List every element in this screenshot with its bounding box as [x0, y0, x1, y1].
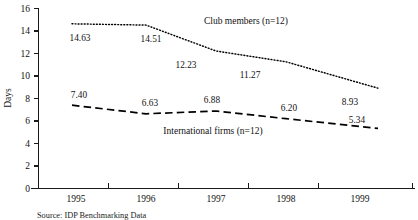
series-club-members: 14.63 14.51 12.23 11.27 8.93 Club member…: [70, 16, 378, 107]
y-tick-label-12: 12: [21, 49, 31, 59]
y-tick-label-16: 16: [21, 4, 31, 14]
y-tick-label-10: 10: [21, 71, 31, 81]
x-tick-label-1998: 1998: [277, 194, 296, 204]
y-tick-label-0: 0: [25, 184, 30, 194]
y-tick-label-2: 2: [25, 161, 30, 171]
point-label-club-1998: 11.27: [240, 70, 261, 80]
point-label-club-1995: 14.63: [70, 33, 91, 43]
x-tick-label-1996: 1996: [137, 194, 156, 204]
y-tick-label-8: 8: [25, 94, 30, 104]
y-axis-tick-labels: 16 14 12 10 8 6 4 2 0: [21, 4, 31, 194]
series-club-members-line: [72, 24, 378, 88]
x-tick-label-1999: 1999: [351, 194, 370, 204]
line-chart: 16 14 12 10 8 6 4 2 0 Days 1995 1996 199…: [0, 0, 418, 220]
point-label-intl-1996: 6.63: [142, 98, 159, 108]
y-tick-label-14: 14: [21, 26, 31, 36]
y-tick-label-4: 4: [25, 139, 30, 149]
point-label-intl-1998: 6.20: [281, 103, 298, 113]
source-note: Source: IDP Benchmarking Data: [37, 211, 146, 220]
point-label-intl-1997: 6.88: [204, 95, 221, 105]
series-label-club-members: Club members (n=12): [204, 16, 288, 27]
x-axis-ticks: [109, 183, 413, 189]
point-label-club-1997: 12.23: [176, 60, 197, 70]
point-label-club-1999: 8.93: [342, 97, 359, 107]
y-tick-label-6: 6: [25, 116, 30, 126]
point-label-club-1996: 14.51: [141, 34, 162, 44]
series-international-firms: 7.40 6.63 6.88 6.20 5.34 International f…: [71, 90, 378, 137]
y-axis-title: Days: [3, 88, 13, 108]
x-axis-tick-labels: 1995 1996 1997 1998 1999: [67, 194, 370, 204]
point-label-intl-1999: 5.34: [349, 115, 366, 125]
point-label-intl-1995: 7.40: [71, 90, 88, 100]
y-axis-ticks: [34, 9, 39, 189]
x-tick-label-1997: 1997: [207, 194, 226, 204]
series-label-international-firms: International firms (n=12): [163, 126, 262, 137]
chart-screenshot: 16 14 12 10 8 6 4 2 0 Days 1995 1996 199…: [0, 0, 418, 220]
x-tick-label-1995: 1995: [67, 194, 86, 204]
